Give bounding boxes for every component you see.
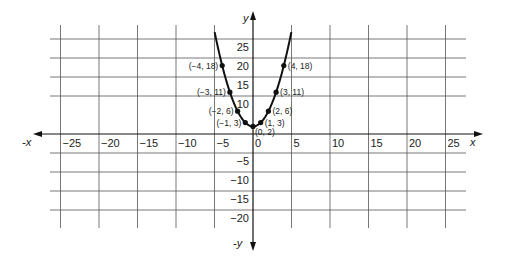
point-label: (0, 2) <box>255 127 275 137</box>
negative-y-axis-label: -y <box>233 237 244 249</box>
data-point <box>227 90 232 95</box>
x-tick-label: −10 <box>178 137 197 149</box>
point-label: (−4, 18) <box>189 61 219 71</box>
x-tick-label: 5 <box>294 137 300 149</box>
arrow-up-icon <box>250 11 256 20</box>
point-label: (3, 11) <box>280 87 304 97</box>
x-tick-label: 20 <box>409 137 421 149</box>
data-point <box>258 120 263 125</box>
point-label: (2, 6) <box>272 106 292 116</box>
point-label: (−1, 3) <box>216 118 241 128</box>
data-point <box>281 63 286 68</box>
data-points: (−4, 18)(−3, 11)(−2, 6)(−1, 3)(0, 2)(1, … <box>189 61 313 138</box>
y-tick-label: −10 <box>230 174 249 186</box>
arrow-down-icon <box>250 242 256 251</box>
data-point <box>274 90 279 95</box>
point-label: (4, 18) <box>288 61 313 71</box>
y-tick-label: 20 <box>237 60 249 72</box>
x-tick-label: 25 <box>448 137 460 149</box>
y-axis-label: y <box>242 12 250 24</box>
point-label: (1, 3) <box>265 118 285 128</box>
data-point <box>235 109 240 114</box>
parabola-chart: −25−20−15−10−5051015202525201510−5−10−15… <box>0 0 506 259</box>
x-tick-label: −15 <box>140 137 159 149</box>
x-tick-label: −5 <box>217 137 230 149</box>
y-tick-label: −20 <box>230 212 249 224</box>
x-tick-label: 0 <box>255 137 261 149</box>
y-tick-label: −5 <box>236 155 249 167</box>
point-label: (−3, 11) <box>197 87 226 97</box>
y-tick-label: −15 <box>230 193 249 205</box>
x-tick-label: −20 <box>101 137 120 149</box>
arrow-left-icon <box>33 131 42 137</box>
y-tick-label: 25 <box>237 41 249 53</box>
x-tick-label: 15 <box>371 137 383 149</box>
x-axis-label: x <box>469 136 476 148</box>
x-tick-label: −25 <box>63 137 82 149</box>
data-point <box>220 63 225 68</box>
negative-x-axis-label: -x <box>22 136 32 148</box>
point-label: (−2, 6) <box>209 106 234 116</box>
y-tick-label: 10 <box>237 98 249 110</box>
data-point <box>266 109 271 114</box>
y-tick-label: 15 <box>237 79 249 91</box>
x-tick-label: 10 <box>332 137 344 149</box>
data-point <box>243 120 248 125</box>
